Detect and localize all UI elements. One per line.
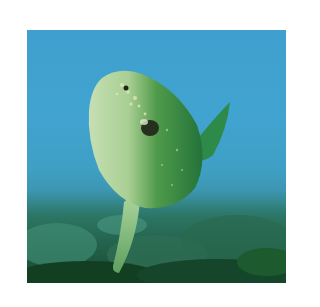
fish-body bbox=[89, 71, 203, 208]
sunfish-photo bbox=[27, 30, 286, 283]
fish-eye bbox=[124, 86, 129, 91]
photo-scene bbox=[27, 30, 286, 283]
